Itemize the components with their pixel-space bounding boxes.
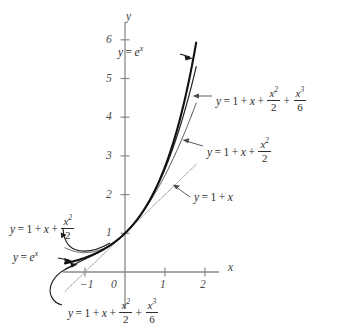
- arrowhead-cubic-right: [193, 93, 200, 98]
- annot-cubic-bottom-fraction-1: x22: [119, 300, 132, 325]
- annot-quad-right-eq: =: [212, 146, 224, 158]
- annot-cubic-bottom-frac2-numerator: x3: [146, 300, 159, 312]
- annot-cubic-bottom-plus2: +: [107, 307, 119, 319]
- annotation-exp-left: y=ex: [13, 252, 38, 264]
- annot-quad-right-fraction: x22: [258, 139, 271, 164]
- annot-exp-top-exponent: x: [140, 44, 143, 53]
- annot-cubic-bottom-frac2-denominator: 6: [146, 312, 159, 325]
- x-tick-label-0: 0: [111, 279, 117, 291]
- annot-linear-right-plus1: +: [216, 191, 228, 203]
- arrowhead-quad-right: [183, 138, 190, 143]
- y-axis-label: y: [126, 11, 131, 23]
- annotation-linear-right: y=1+x: [194, 192, 233, 204]
- annot-quad-left-eq: =: [15, 223, 27, 235]
- annot-quad-left-fraction: x22: [61, 216, 74, 241]
- annot-cubic-bottom-frac1-num-exp: 2: [126, 297, 130, 306]
- x-tick-label--1: −1: [80, 279, 94, 291]
- curves-group: [65, 43, 196, 292]
- annot-cubic-right-frac1-num-exp: 2: [274, 85, 278, 94]
- y-tick-label-4: 4: [106, 111, 112, 123]
- y-tick-label-1: 1: [106, 227, 112, 239]
- x-tick-label-1: 1: [160, 279, 166, 291]
- annot-cubic-bottom-fraction-2: x36: [146, 300, 159, 325]
- annotation-exp-top: y=ex: [118, 47, 143, 59]
- annot-quad-left-frac-numerator: x2: [61, 216, 74, 228]
- annot-quad-left-frac-num-exp: 2: [68, 213, 72, 222]
- annot-cubic-bottom-frac1-denominator: 2: [119, 312, 132, 325]
- annot-exp-left-exponent: x: [35, 249, 38, 258]
- y-tick-label-5: 5: [106, 73, 112, 85]
- annot-cubic-right-plus2: +: [255, 95, 267, 107]
- annot-quad-left-plus1: +: [32, 223, 44, 235]
- annot-exp-top-eq: =: [123, 46, 135, 58]
- annot-cubic-bottom-eq: =: [73, 307, 85, 319]
- annot-cubic-bottom-plus3: +: [133, 307, 145, 319]
- taylor-approximation-figure: y x 123456−1012 y=ex y=1+x+x22+x36 y=1+x…: [0, 0, 347, 333]
- annot-cubic-right-frac2-denominator: 6: [294, 100, 307, 113]
- annot-cubic-right-plus3: +: [281, 95, 293, 107]
- annot-cubic-right-frac1-denominator: 2: [267, 100, 280, 113]
- annot-quad-left-plus2: +: [49, 223, 61, 235]
- annotation-cubic-bottom: y=1+x+x22+x36: [68, 300, 159, 325]
- annot-cubic-bottom-plus1: +: [90, 307, 102, 319]
- annot-cubic-bottom-frac2-num-exp: 3: [153, 297, 157, 306]
- annotation-quad-left: y=1+x+x22: [10, 216, 75, 241]
- annot-cubic-right-fraction-2: x36: [294, 88, 307, 113]
- x-tick-label-2: 2: [200, 279, 206, 291]
- annot-cubic-bottom-frac1-numerator: x2: [119, 300, 132, 312]
- annot-linear-right-x: x: [228, 191, 233, 203]
- annotation-quad-right: y=1+x+x22: [207, 139, 272, 164]
- leader-lines-group: [50, 54, 212, 305]
- annot-cubic-right-fraction-1: x22: [267, 88, 280, 113]
- plot-canvas: [0, 0, 347, 333]
- x-axis-label: x: [228, 262, 233, 274]
- annot-exp-left-eq: =: [18, 251, 30, 263]
- curve-cubic-approximation: [65, 67, 196, 270]
- y-tick-label-6: 6: [106, 34, 112, 46]
- annot-quad-right-frac-num-exp: 2: [265, 136, 269, 145]
- annot-quad-right-frac-denominator: 2: [258, 151, 271, 164]
- curve-quadratic-approximation: [65, 103, 196, 253]
- annot-cubic-right-eq: =: [221, 95, 233, 107]
- annot-quad-right-plus2: +: [246, 146, 258, 158]
- y-tick-label-3: 3: [106, 150, 112, 162]
- annot-linear-right-eq: =: [199, 191, 211, 203]
- y-tick-label-2: 2: [106, 189, 112, 201]
- annot-cubic-right-frac2-num-exp: 3: [301, 85, 305, 94]
- annot-quad-right-plus1: +: [229, 146, 241, 158]
- leader-linear-right: [176, 187, 190, 197]
- annot-cubic-right-frac2-numerator: x3: [294, 88, 307, 100]
- annot-quad-right-frac-numerator: x2: [258, 139, 271, 151]
- annot-cubic-right-frac1-numerator: x2: [267, 88, 280, 100]
- curve-exponential: [65, 43, 196, 264]
- annot-quad-left-frac-denominator: 2: [61, 228, 74, 241]
- annotation-cubic-right: y=1+x+x22+x36: [216, 88, 307, 113]
- annot-cubic-right-plus1: +: [238, 95, 250, 107]
